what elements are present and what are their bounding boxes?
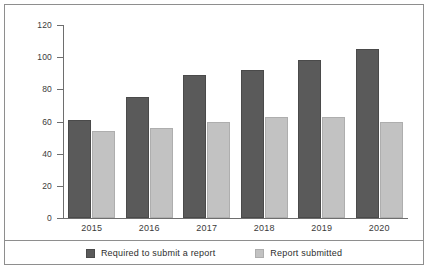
y-tick-label: 0 xyxy=(24,213,52,223)
y-tick-mark xyxy=(57,89,63,90)
y-tick-label: 40 xyxy=(24,149,52,159)
bar-2017-required xyxy=(183,75,206,218)
chart-figure: No. of reports 020406080100120 201520162… xyxy=(0,0,428,269)
bar-2020-submitted xyxy=(380,122,403,219)
bar-2018-required xyxy=(241,70,264,218)
legend-swatch-icon-required xyxy=(86,249,95,258)
chart-legend: Required to submit a report Report submi… xyxy=(4,240,424,265)
legend-label-submitted: Report submitted xyxy=(270,248,342,258)
x-tick-label: 2018 xyxy=(236,223,294,233)
bar-2016-submitted xyxy=(150,128,173,218)
bar-2020-required xyxy=(356,49,379,218)
y-tick-label: 80 xyxy=(24,84,52,94)
y-tick-mark xyxy=(57,218,63,219)
y-tick-mark xyxy=(57,25,63,26)
bar-2015-submitted xyxy=(92,131,115,218)
y-tick-label: 60 xyxy=(24,117,52,127)
x-tick-label: 2016 xyxy=(121,223,179,233)
bar-2017-submitted xyxy=(207,122,230,219)
legend-swatch-icon-submitted xyxy=(255,249,264,258)
y-tick-mark xyxy=(57,57,63,58)
y-tick-label: 100 xyxy=(24,52,52,62)
y-tick-label: 20 xyxy=(24,181,52,191)
x-tick-label: 2019 xyxy=(293,223,351,233)
y-tick-mark xyxy=(57,186,63,187)
x-tick-label: 2015 xyxy=(63,223,121,233)
bar-2018-submitted xyxy=(265,117,288,218)
legend-item-submitted[interactable]: Report submitted xyxy=(255,248,342,258)
bar-2015-required xyxy=(68,120,91,218)
y-axis-line xyxy=(63,25,64,219)
legend-label-required: Required to submit a report xyxy=(101,248,215,258)
y-tick-mark xyxy=(57,122,63,123)
bar-2016-required xyxy=(126,97,149,218)
y-tick-mark xyxy=(57,154,63,155)
x-tick-label: 2020 xyxy=(351,223,409,233)
x-tick-label: 2017 xyxy=(178,223,236,233)
legend-item-required[interactable]: Required to submit a report xyxy=(86,248,215,258)
y-tick-label: 120 xyxy=(24,20,52,30)
x-axis-line xyxy=(63,218,408,219)
bar-2019-required xyxy=(298,60,321,218)
bar-2019-submitted xyxy=(322,117,345,218)
